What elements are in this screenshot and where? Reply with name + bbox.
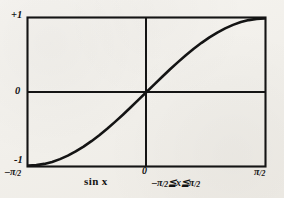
domain-left-pi: –π [152,177,162,188]
x-axis-label-min-pi: –π [5,166,15,177]
x-axis-label-min-denominator: /2 [15,170,21,178]
x-axis-label-min: –π/2 [5,167,21,178]
sine-curve-figure: +1 0 -1 –π/2 0 π/2 sin x –π/2≦x≦π/2 [0,0,284,198]
x-axis-label-max: π/2 [254,167,265,178]
domain-operator-right: ≦ [181,177,189,188]
x-axis-label-zero: 0 [142,166,147,176]
domain-right-denominator: /2 [194,181,200,189]
y-axis-label-zero: 0 [15,86,20,97]
y-axis-label-min: -1 [14,155,23,166]
domain-caption: –π/2≦x≦π/2 [152,178,200,189]
domain-operator-left: ≦ [168,177,176,188]
x-axis-label-max-denominator: /2 [259,170,265,178]
y-axis-label-max: +1 [11,10,22,21]
function-caption: sin x [84,176,108,187]
